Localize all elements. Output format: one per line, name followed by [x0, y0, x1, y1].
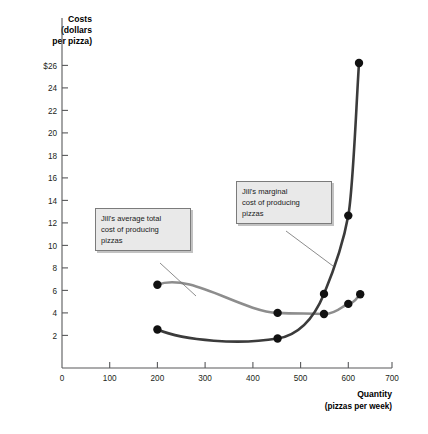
y-tick-label: 6	[52, 287, 57, 296]
mc-annotation-line-2: cost of producing	[242, 197, 326, 208]
atc-curve	[157, 282, 360, 314]
data-point	[153, 325, 161, 333]
x-axis-tick-labels: 0 100 200 300 400 500 600 700	[60, 374, 400, 383]
x-tick-label: 500	[294, 374, 308, 383]
x-tick-label: 300	[198, 374, 212, 383]
y-tick-label: 16	[48, 174, 58, 183]
y-axis-tick-labels: 2 4 6 8 10 12 14 16 18 20 22 24 $26	[43, 62, 57, 341]
data-point	[344, 211, 352, 219]
atc-annotation-line-2: cost of producing	[101, 224, 185, 235]
y-tick-label: 10	[48, 242, 58, 251]
x-axis-title-line-2: (pizzas per week)	[325, 402, 393, 411]
atc-callout-leader	[160, 263, 196, 296]
x-tick-label: 700	[385, 374, 399, 383]
y-tick-label: 18	[48, 152, 58, 161]
mc-annotation-line-3: pizzas	[242, 208, 326, 219]
y-tick-label: 14	[48, 197, 58, 206]
data-point	[356, 290, 364, 298]
x-tick-label: 600	[341, 374, 355, 383]
x-tick-label: 100	[103, 374, 117, 383]
x-tick-label: 0	[60, 374, 65, 383]
y-axis-ticks	[62, 65, 68, 335]
mc-annotation-line-1: Jill's marginal	[242, 186, 326, 197]
y-axis-title-line-3: per pizza)	[52, 36, 92, 46]
data-point	[153, 281, 161, 289]
x-tick-label: 400	[246, 374, 260, 383]
y-tick-label: 20	[48, 129, 58, 138]
y-tick-label: 12	[48, 219, 58, 228]
x-tick-label: 200	[151, 374, 165, 383]
atc-annotation-callout: Jill's average total cost of producing p…	[95, 208, 191, 251]
y-tick-label: $26	[43, 62, 57, 71]
y-tick-label: 4	[52, 309, 57, 318]
data-point	[273, 309, 281, 317]
chart-canvas: Costs (dollars per pizza) 2 4 6 8	[0, 0, 428, 434]
atc-annotation-line-3: pizzas	[101, 235, 185, 246]
data-point	[355, 59, 363, 67]
x-axis-ticks	[110, 362, 392, 368]
mc-annotation-callout: Jill's marginal cost of producing pizzas	[236, 181, 332, 224]
chart-figure: Costs (dollars per pizza) 2 4 6 8	[0, 0, 428, 434]
y-axis-title-line-2: (dollars	[61, 25, 92, 35]
y-tick-label: 22	[48, 107, 58, 116]
data-point	[320, 310, 328, 318]
data-point	[320, 290, 328, 298]
data-point	[273, 334, 281, 342]
y-tick-label: 24	[48, 84, 58, 93]
data-point	[344, 300, 352, 308]
mc-callout-leader	[286, 231, 333, 266]
y-tick-label: 8	[52, 264, 57, 273]
atc-annotation-line-1: Jill's average total	[101, 213, 185, 224]
x-axis-title-line-1: Quantity	[357, 389, 392, 399]
y-tick-label: 2	[52, 332, 57, 341]
y-axis-title-line-1: Costs	[68, 14, 92, 24]
